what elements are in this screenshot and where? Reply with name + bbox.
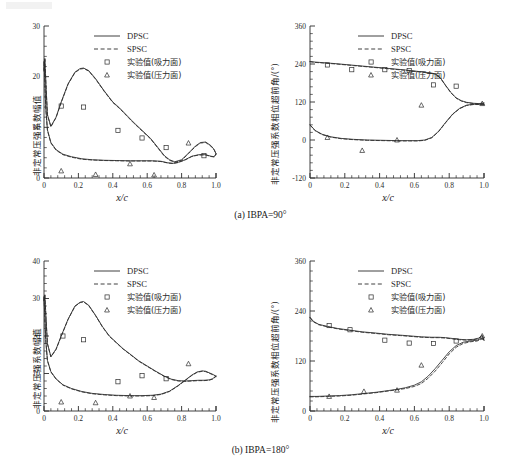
- chart-a-phase-ylabel: 非定常压强系数相位超前角/(°): [268, 63, 280, 185]
- svg-text:0.8: 0.8: [445, 414, 455, 423]
- svg-text:360: 360: [295, 257, 307, 266]
- svg-text:实验值(吸力面): 实验值(吸力面): [391, 57, 445, 67]
- svg-text:0.2: 0.2: [74, 181, 84, 190]
- svg-text:1.0: 1.0: [211, 414, 221, 423]
- svg-text:240: 240: [295, 60, 307, 69]
- svg-text:0.4: 0.4: [108, 414, 118, 423]
- chart-b-amplitude: 非定常压强系数幅值 01020304000.20.40.60.81.0DPSCS…: [0, 233, 260, 443]
- svg-text:0.8: 0.8: [445, 181, 455, 190]
- svg-text:0.8: 0.8: [177, 181, 187, 190]
- svg-text:0: 0: [308, 414, 312, 423]
- svg-text:30: 30: [33, 22, 41, 31]
- panel-b-caption: (b) IBPA=180°: [0, 445, 521, 455]
- svg-text:实验值(吸力面): 实验值(吸力面): [391, 292, 445, 302]
- svg-text:DPSC: DPSC: [127, 266, 149, 276]
- chart-b-phase-xlabel: x/c: [358, 425, 418, 436]
- chart-a-phase-xlabel: x/c: [358, 192, 418, 203]
- svg-text:DPSC: DPSC: [391, 266, 413, 276]
- svg-text:240: 240: [295, 307, 307, 316]
- svg-text:0: 0: [42, 181, 46, 190]
- figure-root: 非定常压强系数幅值 010203000.20.40.60.81.0DPSCSPS…: [0, 0, 521, 467]
- svg-text:0.6: 0.6: [410, 414, 420, 423]
- panel-a-caption: (a) IBPA=90°: [0, 210, 521, 220]
- svg-text:0.6: 0.6: [410, 181, 420, 190]
- chart-b-amplitude-ylabel: 非定常压强系数幅值: [30, 328, 42, 409]
- svg-text:实验值(压力面): 实验值(压力面): [127, 305, 181, 315]
- chart-a-phase: 非定常压强系数相位超前角/(°) -120012024036000.20.40.…: [258, 0, 518, 210]
- svg-text:SPSC: SPSC: [391, 279, 411, 289]
- svg-text:120: 120: [295, 357, 307, 366]
- svg-text:30: 30: [33, 294, 41, 303]
- svg-text:SPSC: SPSC: [127, 279, 147, 289]
- svg-text:0.8: 0.8: [177, 414, 187, 423]
- svg-text:0.6: 0.6: [143, 181, 153, 190]
- panel-a: 非定常压强系数幅值 010203000.20.40.60.81.0DPSCSPS…: [0, 0, 521, 233]
- svg-text:0.2: 0.2: [340, 414, 350, 423]
- svg-text:-120: -120: [292, 174, 306, 183]
- svg-text:1.0: 1.0: [211, 181, 221, 190]
- svg-text:DPSC: DPSC: [391, 31, 413, 41]
- svg-text:1.0: 1.0: [479, 414, 489, 423]
- chart-b-phase-ylabel: 非定常压强系数相位超前角/(°): [268, 301, 280, 423]
- svg-text:实验值(压力面): 实验值(压力面): [391, 70, 445, 80]
- svg-text:0: 0: [42, 414, 46, 423]
- chart-a-amplitude-xlabel: x/c: [92, 192, 152, 203]
- svg-text:实验值(吸力面): 实验值(吸力面): [127, 57, 181, 67]
- svg-text:0.4: 0.4: [375, 414, 385, 423]
- svg-text:0.4: 0.4: [375, 181, 385, 190]
- svg-text:实验值(压力面): 实验值(压力面): [127, 70, 181, 80]
- svg-text:360: 360: [295, 22, 307, 31]
- chart-b-phase: 非定常压强系数相位超前角/(°) 012024036000.20.40.60.8…: [258, 233, 518, 443]
- chart-a-amplitude: 非定常压强系数幅值 010203000.20.40.60.81.0DPSCSPS…: [0, 0, 260, 210]
- svg-text:120: 120: [295, 98, 307, 107]
- svg-text:20: 20: [33, 72, 41, 81]
- svg-text:40: 40: [33, 257, 41, 266]
- chart-a-phase-plot: -120012024036000.20.40.60.81.0DPSCSPSC实验…: [258, 0, 521, 210]
- svg-text:0.2: 0.2: [74, 414, 84, 423]
- svg-text:0: 0: [302, 407, 306, 416]
- svg-text:0.6: 0.6: [143, 414, 153, 423]
- svg-text:实验值(压力面): 实验值(压力面): [391, 305, 445, 315]
- svg-text:SPSC: SPSC: [127, 44, 147, 54]
- svg-text:0: 0: [302, 136, 306, 145]
- chart-b-phase-plot: 012024036000.20.40.60.81.0DPSCSPSC实验值(吸力…: [258, 233, 521, 443]
- svg-text:实验值(吸力面): 实验值(吸力面): [127, 292, 181, 302]
- svg-text:0.2: 0.2: [340, 181, 350, 190]
- chart-b-amplitude-xlabel: x/c: [92, 425, 152, 436]
- svg-text:SPSC: SPSC: [391, 44, 411, 54]
- svg-text:DPSC: DPSC: [127, 31, 149, 41]
- chart-a-amplitude-ylabel: 非定常压强系数幅值: [30, 95, 42, 176]
- svg-text:0.4: 0.4: [108, 181, 118, 190]
- panel-b: 非定常压强系数幅值 01020304000.20.40.60.81.0DPSCS…: [0, 233, 521, 466]
- svg-text:1.0: 1.0: [479, 181, 489, 190]
- svg-text:0: 0: [308, 181, 312, 190]
